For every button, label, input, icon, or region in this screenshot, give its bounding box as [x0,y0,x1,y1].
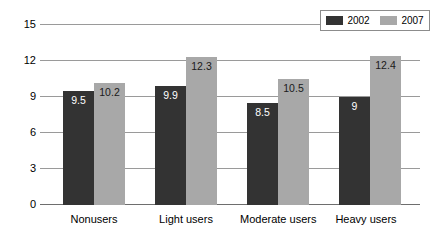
bar-2002-light-users[interactable]: 9.9 [155,86,186,205]
legend-item-2007[interactable]: 2007 [380,16,423,26]
bar-2002-moderate-users[interactable]: 8.5 [247,103,278,205]
gridline-12 [40,60,420,61]
x-tick-label-heavy-users: Heavy users [335,213,397,225]
bar-2007-moderate-users[interactable]: 10.5 [278,79,309,205]
bar-value-label: 8.5 [247,107,278,118]
bar-2007-light-users[interactable]: 12.3 [186,57,217,205]
bar-2007-heavy-users[interactable]: 12.4 [370,56,401,205]
legend-swatch-icon [326,16,343,25]
legend-label: 2007 [401,16,423,26]
bar-value-label: 10.2 [94,87,125,98]
bar-value-label: 9 [339,101,370,112]
bar-value-label: 9.9 [155,90,186,101]
y-tick-label-12: 12 [0,55,36,66]
legend-item-2002[interactable]: 2002 [326,16,369,26]
y-tick-label-6: 6 [0,127,36,138]
legend-label: 2002 [347,16,369,26]
bar-value-label: 9.5 [63,95,94,106]
x-tick-label-nonusers: Nonusers [63,213,125,225]
bar-value-label: 12.4 [370,60,401,71]
y-tick-label-3: 3 [0,163,36,174]
bar-2007-nonusers[interactable]: 10.2 [94,83,125,205]
y-tick-label-15: 15 [0,19,36,30]
plot-area: 9.5 10.2 9.9 12.3 8.5 10.5 9 12.4 [63,24,420,205]
bar-value-label: 10.5 [278,83,309,94]
legend: 2002 2007 [320,10,430,31]
x-tick-label-light-users: Light users [155,213,217,225]
bar-2002-heavy-users[interactable]: 9 [339,97,370,205]
y-tick-label-0: 0 [0,199,36,210]
x-tick-label-moderate-users: Moderate users [240,213,312,225]
legend-swatch-icon [380,16,397,25]
bar-2002-nonusers[interactable]: 9.5 [63,91,94,205]
y-tick-label-9: 9 [0,91,36,102]
bar-value-label: 12.3 [186,61,217,72]
bar-chart: 15 12 9 6 3 0 9.5 10.2 9.9 12.3 8.5 [0,0,442,239]
